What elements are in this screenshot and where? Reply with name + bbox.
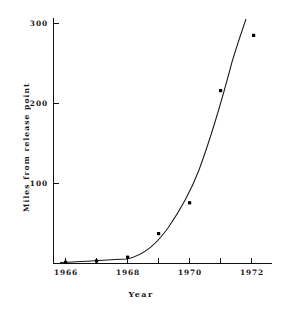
x-tick-label-1968: 1968	[110, 269, 146, 276]
y-axis-title: Miles from release point	[22, 42, 31, 212]
data-point-1967	[95, 259, 98, 262]
y-tick-label-300: 300	[24, 20, 48, 27]
data-point-1971	[219, 89, 222, 92]
data-point-1970	[188, 201, 191, 204]
data-point-1972	[252, 34, 255, 37]
chart-canvas	[0, 0, 282, 313]
y-tick-marks	[54, 24, 60, 184]
data-points	[64, 34, 255, 264]
data-point-1969	[157, 232, 160, 235]
x-tick-label-1966: 1966	[48, 269, 84, 276]
x-tick-label-1970: 1970	[172, 269, 208, 276]
data-point-1966	[64, 261, 67, 264]
x-axis-title: Year	[0, 289, 282, 299]
fitted-curve	[60, 19, 246, 263]
data-point-1968	[126, 256, 129, 259]
figure-panel: 300 200 100 1966 1968 1970 1972 Miles fr…	[0, 0, 282, 313]
x-tick-label-1972: 1972	[234, 269, 270, 276]
